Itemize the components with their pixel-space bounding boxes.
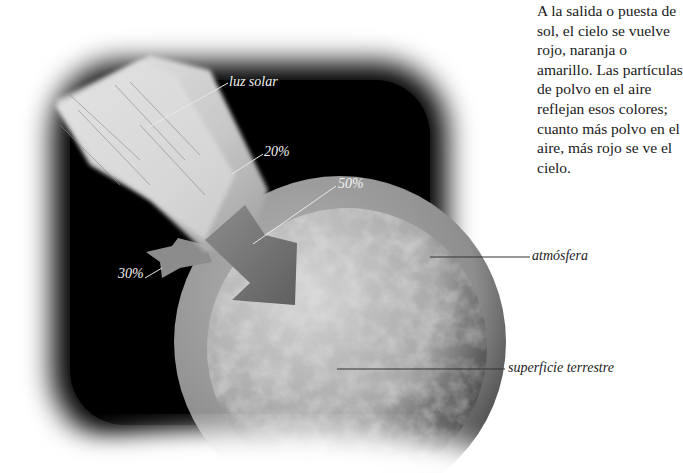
paragraph-line: amarillo. Las partículas [537,60,667,80]
paragraph-line: reflejan esos colores; [537,99,667,119]
label-sunlight: luz solar [229,74,278,90]
label-surface: superficie terrestre [508,360,614,376]
label-30-percent: 30% [118,266,144,282]
paragraph-line: sol, el cielo se vuelve [537,21,667,41]
explanation-paragraph: A la salida o puesta de sol, el cielo se… [537,1,667,177]
paragraph-line: aire, más rojo se ve el [537,138,667,158]
paragraph-line: cuanto más polvo en el [537,119,667,139]
paragraph-line: A la salida o puesta de [537,1,667,21]
paragraph-line: rojo, naranja o [537,40,667,60]
label-atmosphere: atmósfera [532,248,588,264]
label-50-percent: 50% [338,176,364,192]
label-20-percent: 20% [264,144,290,160]
paragraph-line: cielo. [537,158,667,178]
paragraph-line: de polvo en el aire [537,79,667,99]
